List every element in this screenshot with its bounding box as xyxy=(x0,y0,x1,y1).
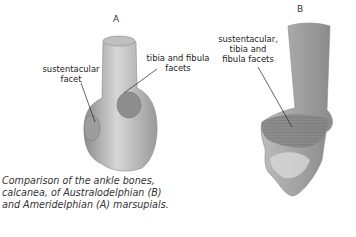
label-line: tibia and fibula xyxy=(140,53,216,63)
label-line: tibia and xyxy=(216,44,280,54)
panel-b-letter: B xyxy=(297,4,303,14)
panel-a-letter: A xyxy=(113,14,119,24)
label-line: fibula facets xyxy=(216,54,280,64)
label-line: sustentacular xyxy=(36,64,106,74)
label-line: facets xyxy=(140,63,216,73)
label-line: facet xyxy=(36,74,106,84)
label-sustentacular-facet: sustentacular facet xyxy=(36,64,106,84)
figure-caption: Comparison of the ankle bones, calcanea,… xyxy=(2,175,172,211)
label-tibia-fibula-facets: tibia and fibula facets xyxy=(140,53,216,73)
label-line: sustentacular, xyxy=(216,34,280,44)
label-combined-facets: sustentacular, tibia and fibula facets xyxy=(216,34,280,64)
